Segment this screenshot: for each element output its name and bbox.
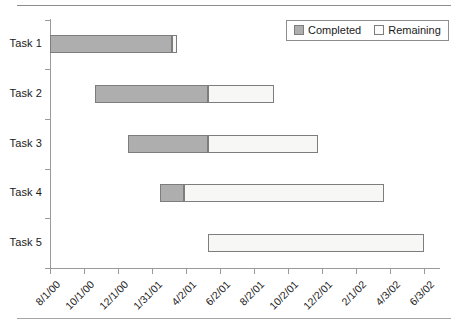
x-axis-tick-label: 8/1/00 xyxy=(33,278,63,308)
gantt-chart-figure: Task 1Task 2Task 3Task 4Task 5 8/1/0010/… xyxy=(0,0,467,326)
top-divider-rule xyxy=(17,5,451,6)
x-axis-tick-label: 12/1/00 xyxy=(97,278,131,312)
x-axis-tick xyxy=(84,269,85,274)
x-axis-tick-label: 4/2/01 xyxy=(169,278,199,308)
chart-legend: Completed Remaining xyxy=(286,20,449,41)
legend-swatch-remaining-icon xyxy=(374,25,384,35)
y-axis-tick xyxy=(45,218,50,219)
x-axis-tick xyxy=(118,269,119,274)
y-axis-category-label-4: Task 4 xyxy=(0,186,42,198)
legend-entry-completed[interactable]: Completed xyxy=(294,24,361,36)
x-axis-tick xyxy=(322,269,323,274)
y-axis-category-label-2: Task 2 xyxy=(0,87,42,99)
gantt-bar-remaining-task-5[interactable] xyxy=(208,234,424,252)
x-axis-line xyxy=(50,268,440,269)
gantt-bar-completed-task-1[interactable] xyxy=(50,35,172,53)
legend-entry-remaining[interactable]: Remaining xyxy=(374,24,441,36)
legend-label-completed: Completed xyxy=(308,24,361,36)
y-axis-tick xyxy=(45,69,50,70)
gantt-bar-remaining-task-3[interactable] xyxy=(208,135,318,153)
x-axis-tick-label: 2/1/02 xyxy=(339,278,369,308)
y-axis-tick xyxy=(45,119,50,120)
y-axis-category-label-1: Task 1 xyxy=(0,37,42,49)
x-axis-tick-label: 4/3/02 xyxy=(373,278,403,308)
gantt-bar-remaining-task-4[interactable] xyxy=(184,184,384,202)
y-axis-category-label-5: Task 5 xyxy=(0,236,42,248)
gantt-bar-remaining-task-2[interactable] xyxy=(208,85,274,103)
x-axis-tick xyxy=(186,269,187,274)
y-axis-line xyxy=(50,19,51,269)
x-axis-tick xyxy=(288,269,289,274)
legend-label-remaining: Remaining xyxy=(388,24,441,36)
x-axis-tick xyxy=(390,269,391,274)
bottom-divider-rule xyxy=(17,318,451,319)
y-axis-category-label-3: Task 3 xyxy=(0,137,42,149)
x-axis-tick-label: 6/3/02 xyxy=(407,278,437,308)
y-axis-tick xyxy=(45,20,50,21)
gantt-bar-completed-task-2[interactable] xyxy=(95,85,208,103)
x-axis-tick xyxy=(50,269,51,274)
gantt-bar-completed-task-4[interactable] xyxy=(160,184,184,202)
y-axis-tick xyxy=(45,169,50,170)
gantt-bar-completed-task-3[interactable] xyxy=(128,135,208,153)
x-axis-tick-label: 10/1/00 xyxy=(63,278,97,312)
gantt-bar-remaining-task-1[interactable] xyxy=(172,35,177,53)
x-axis-tick-label: 8/2/01 xyxy=(237,278,267,308)
legend-swatch-completed-icon xyxy=(294,25,304,35)
x-axis-tick-label: 12/2/01 xyxy=(301,278,335,312)
x-axis-tick xyxy=(424,269,425,274)
x-axis-tick xyxy=(220,269,221,274)
x-axis-tick xyxy=(356,269,357,274)
x-axis-tick-label: 6/2/01 xyxy=(203,278,233,308)
x-axis-tick-label: 10/2/01 xyxy=(267,278,301,312)
x-axis-tick-label: 1/31/01 xyxy=(131,278,165,312)
x-axis-tick xyxy=(254,269,255,274)
x-axis-tick xyxy=(152,269,153,274)
